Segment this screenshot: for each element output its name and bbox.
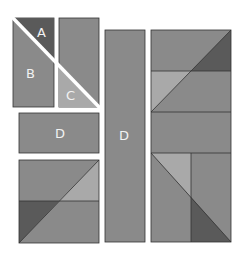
label-b: B [26, 66, 35, 81]
label-a: A [37, 25, 46, 40]
label-c: C [66, 88, 75, 103]
label-d-vertical: D [119, 128, 129, 143]
right-block [151, 30, 231, 242]
piece-c-block: C [59, 18, 99, 107]
label-d-horizontal: D [55, 126, 65, 141]
quilt-diagram: A B C D D [0, 0, 244, 255]
piece-d-horizontal: D [19, 113, 99, 153]
piece-d-vertical: D [105, 30, 145, 242]
bottom-left-block [19, 160, 99, 243]
piece-a-b: A B [13, 18, 54, 107]
